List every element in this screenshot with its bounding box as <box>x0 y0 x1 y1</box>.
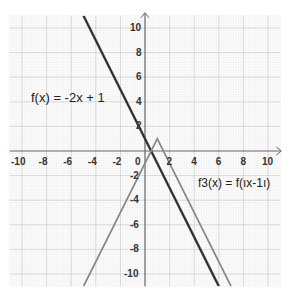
x-tick-label: -2 <box>112 156 121 167</box>
f3-function-label: f3(x) = f(ıx-1ı) <box>198 176 270 190</box>
y-tick-label: 10 <box>130 22 141 33</box>
x-tick-label: 0 <box>135 156 141 167</box>
x-tick-label: -8 <box>39 156 48 167</box>
x-tick-label: 10 <box>262 156 273 167</box>
y-tick-label: 8 <box>136 47 142 58</box>
y-tick-label: -6 <box>130 219 139 230</box>
x-tick-label: 6 <box>216 156 222 167</box>
y-tick-label: 2 <box>136 120 142 131</box>
y-tick-label: 4 <box>136 96 142 107</box>
y-tick-label: -8 <box>130 243 139 254</box>
x-tick-label: 2 <box>167 156 173 167</box>
x-tick-label: 8 <box>240 156 246 167</box>
y-tick-label: 6 <box>136 71 142 82</box>
y-tick-label: -2 <box>130 170 139 181</box>
f-function-label: f(x) = -2x + 1 <box>31 90 105 105</box>
y-tick-label: -4 <box>130 194 139 205</box>
y-tick-label: -10 <box>124 268 138 279</box>
coordinate-plane <box>0 0 299 308</box>
x-tick-label: 4 <box>191 156 197 167</box>
x-tick-label: -4 <box>88 156 97 167</box>
x-tick-label: -10 <box>11 156 25 167</box>
x-tick-label: -6 <box>63 156 72 167</box>
